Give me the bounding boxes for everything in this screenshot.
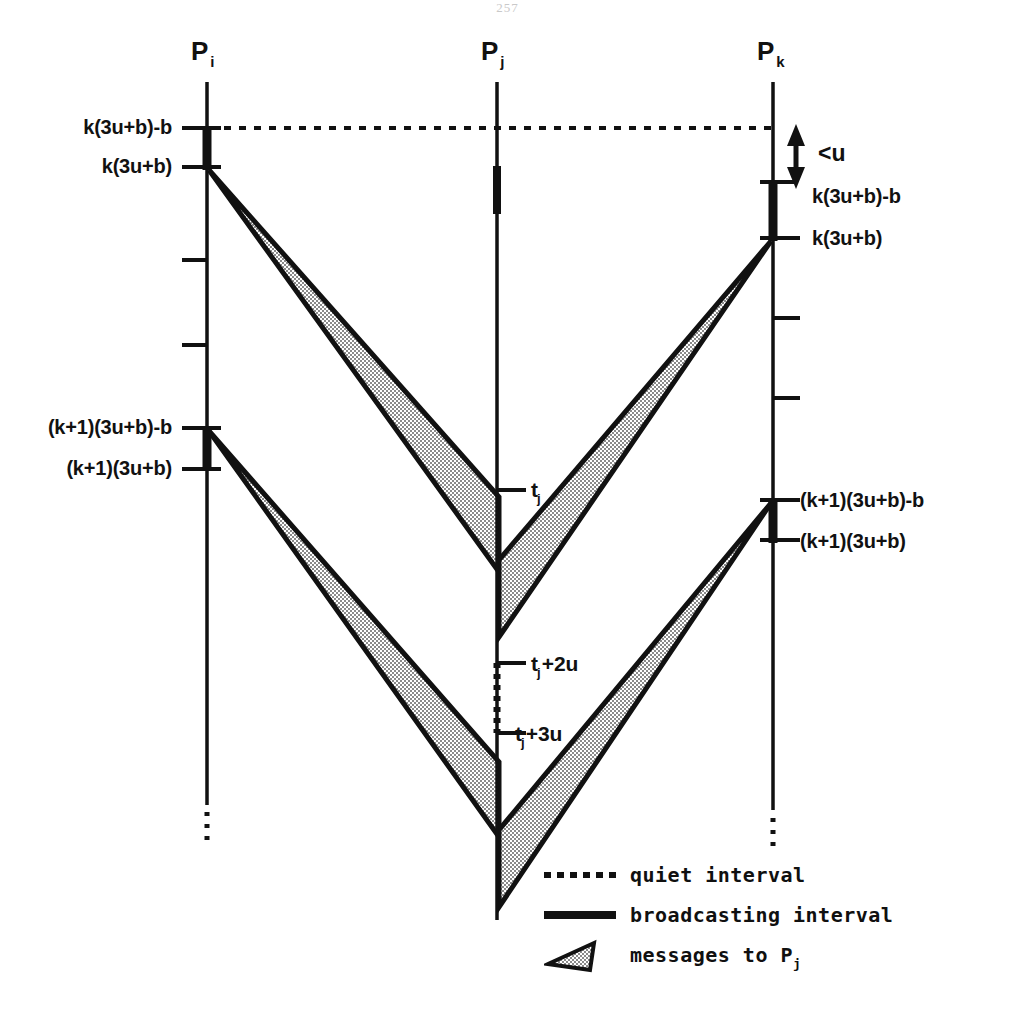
label-pj-tj: tj xyxy=(531,478,542,502)
label-pi-k1-3ub-minus-b: (k+1)(3u+b)-b xyxy=(0,416,172,439)
legend-label-quiet-interval: quiet interval xyxy=(630,863,806,887)
label-pj-tj-plus-3u: tj+3u xyxy=(515,722,562,746)
label-pk-skew-note: <u xyxy=(818,140,845,167)
label-pk-k1-3ub: (k+1)(3u+b) xyxy=(800,530,906,553)
message-wedge-pi-to-pj-upper xyxy=(209,170,499,572)
shaded-triangle-icon xyxy=(544,939,608,973)
process-label-pj: Pj xyxy=(481,36,503,67)
label-pk-k1-3ub-minus-b: (k+1)(3u+b)-b xyxy=(800,489,924,512)
process-label-pi: Pi xyxy=(191,36,213,67)
legend: quiet interval broadcasting interval xyxy=(538,855,1008,975)
legend-item-messages-to-pj: messages to Pj xyxy=(538,935,1008,975)
label-pi-k3ub-minus-b: k(3u+b)-b xyxy=(0,116,172,139)
label-pj-tj-plus-2u: tj+2u xyxy=(531,652,578,676)
label-pi-k3ub: k(3u+b) xyxy=(0,155,172,178)
legend-label-broadcasting-interval: broadcasting interval xyxy=(630,903,893,927)
solid-line-icon xyxy=(544,911,616,919)
timeline-pi xyxy=(182,82,221,848)
dotted-line-icon xyxy=(544,872,616,878)
legend-label-messages-to-pj: messages to Pj xyxy=(630,943,801,967)
message-wedge-pk-to-pj-upper xyxy=(499,241,771,637)
legend-item-broadcasting-interval: broadcasting interval xyxy=(538,895,1008,935)
legend-symbol-container-broadcast xyxy=(538,895,630,935)
label-pk-k3ub-minus-b: k(3u+b)-b xyxy=(812,185,901,208)
timeline-pk xyxy=(760,82,800,854)
skew-double-arrow xyxy=(787,124,805,189)
legend-item-quiet-interval: quiet interval xyxy=(538,855,1008,895)
label-pk-k3ub: k(3u+b) xyxy=(812,227,882,250)
process-label-pk: Pk xyxy=(757,36,783,67)
legend-symbol-container-messages xyxy=(538,935,630,975)
legend-symbol-container-quiet xyxy=(538,855,630,895)
label-pi-k1-3ub: (k+1)(3u+b) xyxy=(0,457,172,480)
figure-root: 257 xyxy=(0,0,1015,1024)
